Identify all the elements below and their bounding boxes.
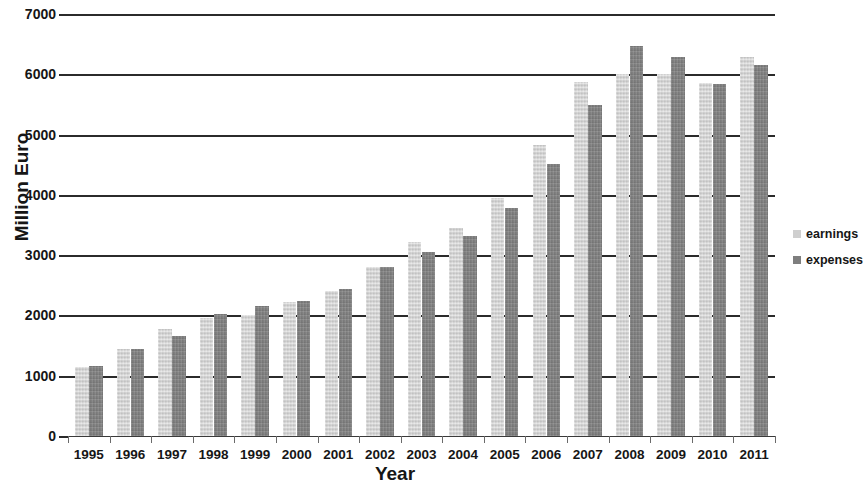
x-tick-mark-1997	[193, 436, 194, 443]
bar-group-2007	[567, 14, 609, 436]
x-tick-mark-2008	[650, 436, 651, 443]
bar-earnings-2004	[449, 228, 463, 436]
x-tick-mark-1998	[234, 436, 235, 443]
bar-earnings-2003	[408, 242, 422, 436]
y-tick-label-2000: 2000	[2, 308, 56, 322]
y-tick-mark-6000	[59, 74, 68, 76]
plot-area	[68, 14, 775, 436]
bar-expenses-2009	[671, 57, 685, 436]
bars-group	[68, 14, 775, 436]
bar-group-2005	[484, 14, 526, 436]
bar-group-1999	[234, 14, 276, 436]
legend: earningsexpenses	[793, 227, 858, 279]
bar-expenses-2000	[297, 301, 311, 436]
x-tick-mark-1999	[276, 436, 277, 443]
y-tick-mark-3000	[59, 255, 68, 257]
legend-label-earnings: earnings	[806, 227, 858, 241]
bar-earnings-2007	[574, 82, 588, 436]
x-axis-title: Year	[0, 463, 790, 485]
bar-group-1996	[110, 14, 152, 436]
bar-expenses-1997	[172, 336, 186, 436]
bar-earnings-2011	[740, 57, 754, 436]
x-tick-mark-2002	[401, 436, 402, 443]
bar-expenses-2007	[588, 105, 602, 436]
y-tick-label-7000: 7000	[2, 7, 56, 21]
x-tick-mark-2007	[609, 436, 610, 443]
bar-expenses-2006	[547, 164, 561, 436]
bar-expenses-2005	[505, 208, 519, 436]
bar-group-2003	[401, 14, 443, 436]
y-tick-mark-5000	[59, 135, 68, 137]
bar-group-1997	[151, 14, 193, 436]
bar-expenses-2003	[422, 252, 436, 436]
x-tick-mark-2009	[692, 436, 693, 443]
bar-earnings-2001	[325, 291, 339, 436]
bar-earnings-1995	[75, 367, 89, 436]
bar-group-2000	[276, 14, 318, 436]
x-tick-mark-2010	[733, 436, 734, 443]
earnings-swatch	[793, 230, 801, 238]
bar-group-1995	[68, 14, 110, 436]
bar-expenses-2002	[380, 267, 394, 436]
x-tick-mark-2003	[442, 436, 443, 443]
bar-expenses-1999	[255, 306, 269, 436]
y-tick-label-6000: 6000	[2, 67, 56, 81]
bar-expenses-1998	[214, 314, 228, 436]
bar-expenses-1995	[89, 366, 103, 436]
bar-group-1998	[193, 14, 235, 436]
bar-earnings-1996	[117, 349, 131, 436]
bar-earnings-2009	[657, 74, 671, 436]
bar-earnings-1999	[241, 315, 255, 436]
y-tick-mark-7000	[59, 14, 68, 16]
bar-earnings-1997	[158, 329, 172, 436]
bar-earnings-2006	[533, 145, 547, 436]
bar-group-2002	[359, 14, 401, 436]
y-tick-mark-2000	[59, 315, 68, 317]
bar-earnings-2008	[616, 74, 630, 436]
y-tick-label-5000: 5000	[2, 128, 56, 142]
x-tick-mark-2006	[567, 436, 568, 443]
x-tick-mark-origin	[68, 436, 69, 443]
bar-earnings-2010	[699, 83, 713, 436]
legend-item-earnings[interactable]: earnings	[793, 227, 858, 241]
bar-earnings-1998	[200, 318, 214, 436]
y-tick-label-3000: 3000	[2, 248, 56, 262]
bar-group-2008	[609, 14, 651, 436]
x-tick-mark-1996	[151, 436, 152, 443]
legend-label-expenses: expenses	[806, 253, 863, 267]
bar-expenses-2008	[630, 46, 644, 436]
bar-expenses-2001	[339, 289, 353, 436]
expenses-swatch	[793, 256, 801, 264]
bar-expenses-2004	[463, 236, 477, 436]
y-tick-mark-1000	[59, 376, 68, 378]
bar-group-2009	[650, 14, 692, 436]
bar-earnings-2002	[366, 267, 380, 436]
x-tick-mark-2001	[359, 436, 360, 443]
y-tick-label-0: 0	[2, 429, 56, 443]
y-tick-mark-0	[59, 436, 68, 438]
bar-group-2006	[525, 14, 567, 436]
bar-group-2001	[318, 14, 360, 436]
y-tick-label-4000: 4000	[2, 188, 56, 202]
bar-expenses-1996	[131, 349, 145, 436]
x-tick-mark-2000	[318, 436, 319, 443]
x-tick-mark-2004	[484, 436, 485, 443]
x-tick-mark-2011	[775, 436, 776, 443]
bar-earnings-2005	[491, 198, 505, 436]
legend-item-expenses[interactable]: expenses	[793, 253, 858, 267]
y-tick-label-1000: 1000	[2, 369, 56, 383]
bar-earnings-2000	[283, 302, 297, 436]
bar-expenses-2011	[754, 65, 768, 436]
bar-group-2011	[733, 14, 775, 436]
y-tick-mark-4000	[59, 195, 68, 197]
bar-expenses-2010	[713, 84, 727, 436]
bar-group-2004	[442, 14, 484, 436]
x-tick-mark-2005	[525, 436, 526, 443]
bar-group-2010	[692, 14, 734, 436]
x-tick-label-2011: 2011	[724, 447, 784, 462]
x-tick-mark-1995	[110, 436, 111, 443]
x-axis-line	[68, 436, 775, 437]
